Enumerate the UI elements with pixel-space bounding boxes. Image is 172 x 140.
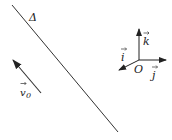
line-delta-label: Δ xyxy=(28,11,37,24)
diagram-canvas: Δ v 0 k j i O xyxy=(0,0,172,140)
axis-j-label: j xyxy=(149,69,156,82)
coordinate-axes: k j i O xyxy=(119,29,166,82)
axis-k-label: k xyxy=(143,35,150,48)
svg-text:0: 0 xyxy=(26,91,31,100)
diagram-svg: Δ v 0 k j i O xyxy=(0,0,172,140)
vector-arrow-overbar-icon xyxy=(21,82,27,85)
velocity-label: v 0 xyxy=(20,82,31,100)
axis-i-label: i xyxy=(121,51,125,64)
velocity-vector-arrow xyxy=(13,60,41,93)
origin-label: O xyxy=(134,63,143,76)
line-delta xyxy=(12,5,118,132)
